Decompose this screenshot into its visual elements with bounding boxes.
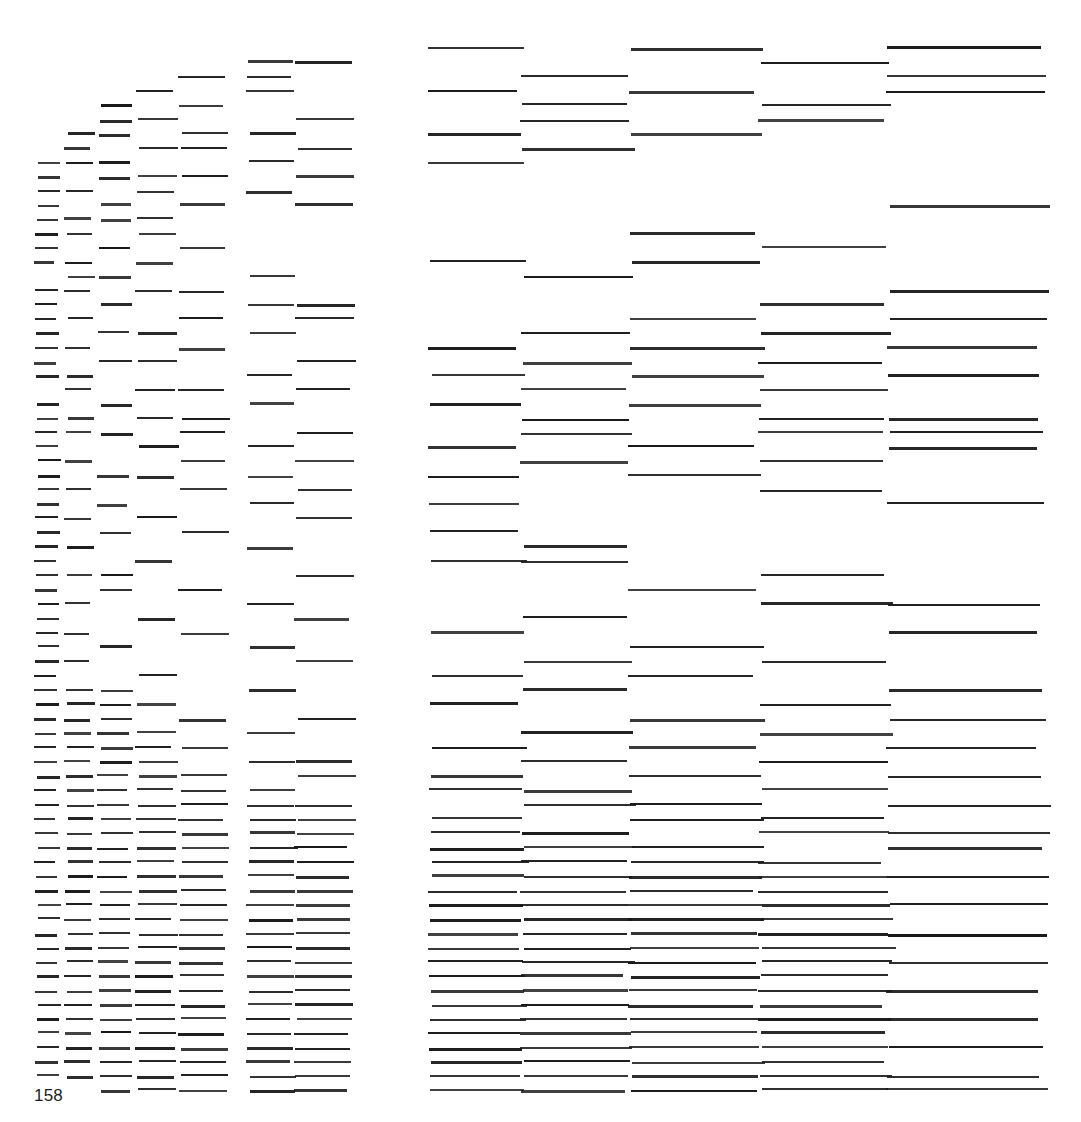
dash-mark — [628, 589, 756, 591]
dash-mark — [295, 460, 353, 462]
dash-mark — [137, 847, 176, 850]
dash-mark — [247, 960, 291, 962]
dash-mark — [524, 545, 627, 548]
dash-mark — [137, 417, 173, 419]
dash-mark — [429, 1048, 522, 1051]
dash-mark — [522, 419, 629, 421]
dash-mark — [36, 962, 58, 964]
dash-mark — [38, 459, 61, 461]
dash-mark — [296, 388, 350, 390]
dash-mark — [66, 190, 93, 192]
dash-mark — [762, 788, 888, 790]
dash-mark — [761, 817, 884, 819]
dash-mark — [179, 105, 223, 107]
dash-mark — [521, 731, 633, 734]
dash-mark — [135, 1004, 175, 1006]
dash-mark — [139, 775, 177, 778]
dash-mark — [296, 947, 350, 950]
dash-mark — [65, 890, 90, 893]
dash-mark — [137, 1076, 174, 1079]
dash-mark — [136, 1018, 175, 1020]
dash-mark — [248, 476, 293, 478]
dash-mark — [628, 675, 753, 677]
dash-mark — [97, 876, 128, 878]
dash-mark — [38, 190, 60, 192]
dash-mark — [35, 804, 58, 806]
dash-mark — [181, 633, 229, 635]
dash-mark — [629, 876, 762, 879]
dash-mark — [182, 747, 228, 749]
dash-mark — [180, 904, 226, 906]
dash-mark — [35, 318, 57, 320]
dash-mark — [758, 431, 883, 433]
dash-mark — [34, 746, 56, 748]
dash-mark — [888, 934, 1047, 937]
dash-mark — [100, 1061, 132, 1063]
dash-mark — [430, 260, 525, 262]
dash-mark — [67, 746, 94, 748]
dash-mark — [35, 890, 58, 893]
dash-mark — [758, 862, 880, 864]
dash-mark — [430, 1019, 526, 1021]
dash-mark — [180, 203, 225, 206]
dash-mark — [97, 848, 128, 850]
dash-mark — [428, 90, 517, 92]
dash-mark — [524, 846, 635, 848]
dash-mark — [758, 891, 888, 893]
dash-mark — [758, 119, 883, 122]
dash-mark — [250, 646, 296, 649]
dash-mark — [295, 61, 352, 64]
dash-mark — [135, 1047, 174, 1050]
dash-mark — [182, 132, 228, 134]
dash-mark — [430, 848, 524, 851]
dash-mark — [524, 804, 636, 806]
dash-mark — [296, 932, 350, 934]
dash-mark — [430, 702, 518, 705]
dash-mark — [630, 232, 755, 235]
dash-mark — [432, 374, 524, 376]
dash-mark — [67, 702, 94, 705]
dash-mark — [180, 431, 225, 433]
dash-mark — [101, 104, 132, 107]
dash-mark — [101, 1090, 131, 1093]
dash-mark — [248, 60, 293, 63]
dash-mark — [297, 833, 354, 835]
dash-mark — [179, 291, 225, 293]
dash-mark — [760, 303, 883, 306]
dash-mark — [761, 974, 888, 976]
dash-mark — [181, 889, 226, 891]
dash-mark — [101, 747, 133, 750]
dash-mark — [178, 589, 222, 591]
dash-mark — [428, 162, 524, 164]
dash-mark — [428, 891, 517, 893]
dash-mark — [762, 661, 886, 663]
dash-mark — [890, 290, 1049, 293]
dash-mark — [762, 104, 891, 106]
dash-mark — [524, 661, 632, 663]
dash-mark — [138, 175, 177, 177]
dash-mark — [888, 805, 1050, 807]
dash-mark — [631, 932, 757, 935]
dash-mark — [65, 1032, 92, 1035]
dash-mark — [64, 1004, 91, 1006]
dash-mark — [298, 718, 356, 720]
dash-mark — [631, 48, 763, 51]
dash-mark — [297, 861, 354, 863]
dash-mark — [179, 317, 223, 319]
dash-mark — [428, 948, 519, 950]
dash-mark — [890, 719, 1046, 721]
dash-mark — [523, 616, 627, 618]
dash-mark — [35, 516, 57, 518]
dash-mark — [759, 876, 888, 878]
dash-mark — [35, 545, 58, 548]
dash-mark — [761, 574, 884, 576]
dash-mark — [180, 247, 225, 249]
dash-mark — [35, 431, 57, 433]
dash-mark — [248, 445, 294, 447]
dash-mark — [64, 975, 91, 977]
dash-mark — [888, 847, 1042, 850]
dash-mark — [180, 919, 228, 921]
dash-mark — [250, 1076, 296, 1078]
dash-mark — [101, 574, 133, 576]
dash-mark — [136, 90, 173, 92]
